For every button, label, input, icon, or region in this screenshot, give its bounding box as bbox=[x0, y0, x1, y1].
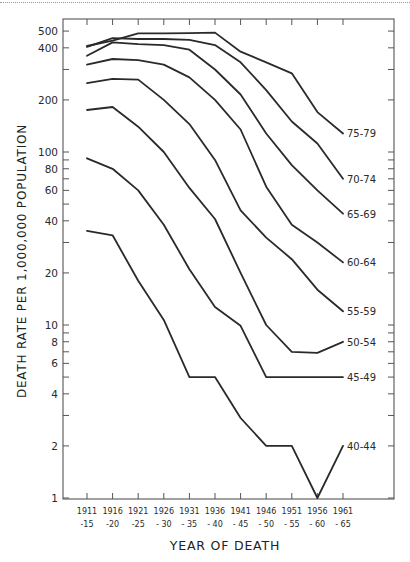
x-axis-ticks: 1911-151916-201921-251926- 301931- 35193… bbox=[77, 19, 353, 529]
x-tick-label-range: - 30 bbox=[156, 520, 172, 529]
y-tick-label: 1 bbox=[51, 492, 58, 504]
x-axis-title: YEAR OF DEATH bbox=[0, 538, 410, 553]
series-label-55-59: 55-59 bbox=[347, 306, 376, 317]
series-label-45-49: 45-49 bbox=[347, 372, 376, 383]
x-tick-label-range: - 35 bbox=[182, 520, 198, 529]
y-tick-label: 100 bbox=[38, 146, 58, 158]
x-tick-label-range: - 45 bbox=[233, 520, 249, 529]
y-tick-label: 200 bbox=[38, 94, 58, 106]
series-line-55-59 bbox=[87, 79, 343, 311]
series-label-70-74: 70-74 bbox=[347, 174, 376, 185]
x-tick-label-year: 1931 bbox=[179, 507, 199, 516]
series-label-60-64: 60-64 bbox=[347, 257, 376, 268]
series-label-65-69: 65-69 bbox=[347, 209, 376, 220]
x-tick-label-range: - 60 bbox=[310, 520, 326, 529]
series-line-45-49 bbox=[87, 158, 343, 377]
y-tick-label: 4 bbox=[51, 388, 58, 400]
x-tick-label-year: 1956 bbox=[307, 507, 327, 516]
y-tick-label: 8 bbox=[51, 336, 58, 348]
x-tick-label-range: -25 bbox=[132, 520, 145, 529]
series-line-40-44 bbox=[87, 231, 343, 498]
series-line-50-54 bbox=[87, 107, 343, 353]
x-tick-label-year: 1921 bbox=[128, 507, 148, 516]
x-tick-label-year: 1926 bbox=[154, 507, 174, 516]
line-chart: 124681020406080100200400500 1911-151916-… bbox=[0, 0, 410, 562]
x-tick-label-year: 1916 bbox=[102, 507, 122, 516]
y-tick-label: 2 bbox=[51, 440, 58, 452]
x-tick-label-year: 1946 bbox=[256, 507, 276, 516]
x-tick-label-year: 1911 bbox=[77, 507, 97, 516]
plot-frame bbox=[63, 19, 394, 499]
y-axis-ticks: 124681020406080100200400500 bbox=[38, 25, 394, 504]
series-label-50-54: 50-54 bbox=[347, 337, 376, 348]
y-tick-label: 6 bbox=[51, 357, 58, 369]
series-label-75-79: 75-79 bbox=[347, 128, 376, 139]
y-tick-label: 20 bbox=[45, 267, 58, 279]
series-line-65-69 bbox=[87, 42, 343, 213]
x-tick-label-year: 1951 bbox=[282, 507, 302, 516]
series-line-75-79 bbox=[87, 33, 343, 134]
y-tick-label: 80 bbox=[45, 163, 58, 175]
x-tick-label-range: - 40 bbox=[207, 520, 223, 529]
series-label-40-44: 40-44 bbox=[347, 441, 376, 452]
y-tick-label: 500 bbox=[38, 25, 58, 37]
x-tick-label-range: -20 bbox=[106, 520, 119, 529]
x-tick-label-range: - 50 bbox=[258, 520, 274, 529]
y-tick-label: 400 bbox=[38, 42, 58, 54]
x-tick-label-year: 1941 bbox=[230, 507, 250, 516]
x-tick-label-range: -15 bbox=[80, 520, 93, 529]
plot-border bbox=[63, 19, 394, 499]
y-axis-title: DEATH RATE PER 1,000,000 POPULATION bbox=[15, 124, 29, 398]
y-tick-label: 40 bbox=[45, 215, 58, 227]
y-tick-label: 60 bbox=[45, 184, 58, 196]
x-tick-label-range: - 65 bbox=[335, 520, 351, 529]
y-tick-label: 10 bbox=[45, 319, 58, 331]
x-tick-label-range: - 55 bbox=[284, 520, 300, 529]
x-tick-label-year: 1936 bbox=[205, 507, 225, 516]
x-tick-label-year: 1961 bbox=[333, 507, 353, 516]
series-labels: 75-7970-7465-6960-6455-5950-5445-4940-44 bbox=[347, 128, 376, 451]
series-lines bbox=[87, 33, 343, 498]
